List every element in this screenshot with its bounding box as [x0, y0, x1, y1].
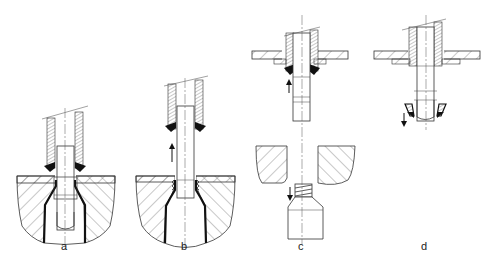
mould-right-a: [75, 176, 115, 243]
panel-label-a: a: [61, 240, 68, 252]
bottle-c: [288, 184, 323, 239]
mandrel-a: [57, 146, 74, 230]
sleeve-right-b: [195, 80, 203, 129]
sleeve-right-d: [434, 22, 442, 66]
mandrel-d: [417, 27, 434, 121]
panel-label-d: d: [421, 240, 427, 252]
mould-right-b: [196, 176, 235, 243]
sleeve-right-a: [75, 112, 83, 168]
sleeve-left-b: [168, 84, 176, 129]
sleeve-left-d: [409, 27, 417, 66]
panel-d: d: [374, 15, 480, 252]
mould-left-a: [17, 176, 56, 243]
panel-label-b: b: [181, 240, 187, 252]
sleeve-left-a: [47, 118, 55, 168]
diagram-canvas: a b: [0, 0, 491, 266]
mould-left-c: [256, 146, 287, 183]
panel-c: c: [252, 15, 355, 252]
mould-left-b: [136, 176, 175, 243]
panel-label-c: c: [298, 240, 304, 252]
mould-right-c: [318, 146, 355, 184]
panel-a: a: [17, 106, 115, 252]
panel-b: b: [136, 76, 235, 252]
mandrel-b: [177, 106, 194, 198]
